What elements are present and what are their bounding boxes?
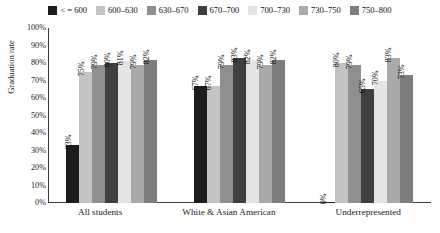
bar[interactable] — [207, 86, 220, 203]
bar-slot: 73% — [400, 28, 413, 203]
bar-group: 33%75%79%80%81%79%82% — [66, 28, 157, 203]
legend-label: 670–700 — [210, 6, 240, 15]
y-axis-tick-label: 30% — [14, 147, 46, 155]
bar-slot: 83% — [387, 28, 400, 203]
bar-value-label: 70% — [372, 70, 380, 85]
legend-swatch-icon — [299, 6, 308, 15]
bar-group: 67%67%79%83%82%79%82% — [194, 28, 285, 203]
x-axis-category-label: All students — [78, 207, 122, 217]
y-axis-tick-label: 70% — [14, 77, 46, 85]
bar-value-label: 65% — [359, 79, 367, 94]
bar-value-label: 67% — [192, 75, 200, 90]
bar[interactable] — [272, 60, 285, 204]
y-axis-tick-label: 40% — [14, 129, 46, 137]
bar-group: 0%80%79%65%70%83%73% — [322, 28, 413, 203]
legend-swatch-icon — [350, 6, 359, 15]
legend-item[interactable]: 730–750 — [299, 6, 341, 15]
bar-value-label: 80% — [104, 53, 112, 68]
bar-value-label: 79% — [346, 54, 354, 69]
bar[interactable] — [194, 86, 207, 203]
bar-slot: 33% — [66, 28, 79, 203]
y-axis-tick-label: 0% — [14, 199, 46, 207]
bar-value-label: 67% — [205, 75, 213, 90]
bar[interactable] — [66, 145, 79, 203]
bar[interactable] — [374, 81, 387, 204]
y-axis-tick-label: 50% — [14, 112, 46, 120]
legend-swatch-icon — [96, 6, 105, 15]
bar-value-label: 80% — [333, 53, 341, 68]
bar[interactable] — [387, 58, 400, 203]
bar[interactable] — [246, 60, 259, 204]
x-axis-category-labels: All studentsWhite & Asian AmericanUnderr… — [48, 207, 431, 217]
bar-value-label: 83% — [385, 47, 393, 62]
legend-item[interactable]: 700–730 — [248, 6, 290, 15]
bar-value-label: 75% — [78, 61, 86, 76]
legend-label: 700–730 — [260, 6, 290, 15]
y-axis-tick-label: 20% — [14, 164, 46, 172]
bar[interactable] — [361, 89, 374, 203]
legend-label: < = 600 — [60, 6, 87, 15]
chart-legend: < = 600600–630630–670670–700700–730730–7… — [0, 6, 440, 15]
bar[interactable] — [79, 72, 92, 203]
grouped-bar-chart: < = 600600–630630–670670–700700–730730–7… — [0, 0, 440, 233]
x-axis-category-label: White & Asian American — [182, 207, 275, 217]
legend-item[interactable]: < = 600 — [48, 6, 87, 15]
bar[interactable] — [220, 65, 233, 203]
bar-value-label: 79% — [130, 54, 138, 69]
bar-value-label: 82% — [143, 49, 151, 64]
bar-value-label: 79% — [257, 54, 265, 69]
y-axis-tick-label: 10% — [14, 182, 46, 190]
bar[interactable] — [118, 61, 131, 203]
bar[interactable] — [144, 60, 157, 204]
bar-slot: 79% — [348, 28, 361, 203]
legend-label: 730–750 — [311, 6, 341, 15]
legend-item[interactable]: 750–800 — [350, 6, 392, 15]
legend-item[interactable]: 670–700 — [198, 6, 240, 15]
y-axis-tick-label: 100% — [14, 24, 46, 32]
bar-value-label: 0% — [320, 193, 328, 204]
bar[interactable] — [400, 75, 413, 203]
legend-swatch-icon — [48, 6, 57, 15]
y-axis-tick-label: 80% — [14, 59, 46, 67]
bar-slot: 82% — [144, 28, 157, 203]
bar[interactable] — [131, 65, 144, 203]
bar[interactable] — [259, 65, 272, 203]
bar-value-label: 73% — [398, 65, 406, 80]
bar[interactable] — [233, 58, 246, 203]
x-axis-category-label: Underrepresented — [336, 207, 401, 217]
y-axis-tick-label: 90% — [14, 42, 46, 50]
bar-value-label: 82% — [270, 49, 278, 64]
bar-value-label: 79% — [218, 54, 226, 69]
bar-slot: 67% — [194, 28, 207, 203]
legend-label: 600–630 — [108, 6, 138, 15]
y-axis-tick-labels: 100%90%80%70%60%50%40%30%20%10%0% — [14, 28, 46, 203]
bar[interactable] — [335, 63, 348, 203]
bar-slot: 65% — [361, 28, 374, 203]
legend-swatch-icon — [198, 6, 207, 15]
bar[interactable] — [105, 63, 118, 203]
legend-swatch-icon — [248, 6, 257, 15]
y-axis-tick-label: 60% — [14, 94, 46, 102]
bar-slot: 82% — [272, 28, 285, 203]
legend-swatch-icon — [147, 6, 156, 15]
bar[interactable] — [92, 65, 105, 203]
legend-item[interactable]: 600–630 — [96, 6, 138, 15]
bar-value-label: 33% — [65, 135, 73, 150]
legend-label: 750–800 — [362, 6, 392, 15]
bar-value-label: 79% — [91, 54, 99, 69]
bar-value-label: 81% — [117, 51, 125, 66]
legend-item[interactable]: 630–670 — [147, 6, 189, 15]
bar-value-label: 82% — [244, 49, 252, 64]
bar-groups: 33%75%79%80%81%79%82%67%67%79%83%82%79%8… — [48, 28, 431, 203]
legend-label: 630–670 — [159, 6, 189, 15]
bar-value-label: 83% — [231, 47, 239, 62]
